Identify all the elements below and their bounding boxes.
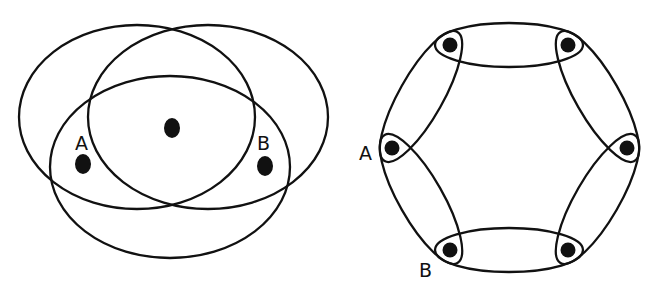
hexagon-label-b: B [419, 259, 432, 281]
hexagon-hyperedge-5 [365, 124, 476, 274]
hexagon-vertex-1 [443, 38, 458, 53]
vertex-a [75, 154, 91, 174]
hexagon-vertex-3 [620, 141, 635, 156]
label-b: B [257, 132, 270, 154]
hyperedge-ellipse-2 [88, 25, 328, 209]
vertex-b [257, 156, 273, 176]
hexagon-hyperedge-2 [541, 21, 653, 172]
hexagon-hyperedge-3 [541, 124, 653, 274]
vertex-center [164, 118, 180, 138]
hexagon-vertex-2 [561, 38, 576, 53]
hexagon-vertex-5 [443, 243, 458, 258]
hyperedge-ellipse-1 [19, 25, 255, 209]
hexagon-vertex-4 [561, 243, 576, 258]
label-a: A [75, 132, 88, 154]
hexagon-hyperedge-6 [365, 21, 476, 172]
right-hexagon-hypergraph: AB [359, 21, 654, 281]
hypergraph-figure: AB AB [0, 0, 655, 296]
hexagon-label-a: A [359, 142, 372, 164]
hexagon-vertex-6 [385, 141, 400, 156]
left-hypergraph: AB [19, 25, 328, 258]
